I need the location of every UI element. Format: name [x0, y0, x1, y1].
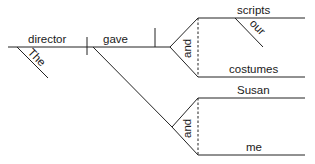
subject-word: director	[28, 33, 67, 45]
direct-object-conjunction: and	[181, 39, 193, 58]
direct-object-1-word: scripts	[237, 4, 270, 16]
verb-word: gave	[103, 33, 128, 45]
sentence-diagram: director The gave and scripts our costum…	[0, 0, 315, 164]
indirect-object-stem	[93, 47, 172, 127]
indirect-object-conjunction: and	[181, 119, 193, 138]
subject-modifier-word: The	[26, 46, 49, 69]
indirect-object-1-word: Susan	[237, 84, 270, 96]
indirect-object-2-word: me	[246, 141, 262, 153]
direct-object-2-word: costumes	[229, 63, 278, 75]
